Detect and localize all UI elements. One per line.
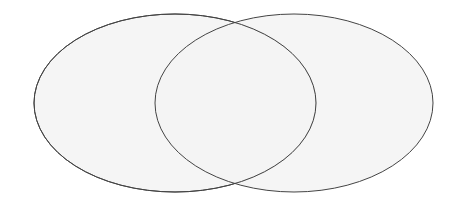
venn-diagram-canvas — [0, 0, 459, 224]
venn-diagram — [0, 0, 459, 224]
right-ellipse-set-b — [155, 14, 433, 192]
